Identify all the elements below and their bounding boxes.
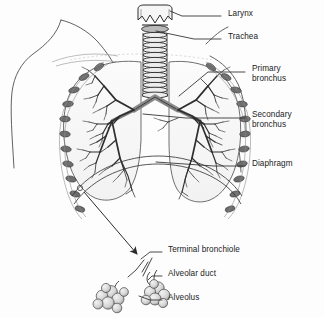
label-secondary-bronchus-line1: Secondary <box>252 110 292 120</box>
label-alveolus: Alveolus <box>168 293 199 303</box>
label-diaphragm: Diaphragm <box>252 159 293 169</box>
label-terminal-bronchiole: Terminal bronchiole <box>168 245 240 255</box>
upper-chest-contour <box>70 54 212 60</box>
respiratory-system-figure: Larynx Trachea Primary bronchus Secondar… <box>0 0 324 318</box>
trachea <box>142 32 168 98</box>
label-trachea: Trachea <box>228 32 258 42</box>
label-alveolar-duct: Alveolar duct <box>168 269 216 279</box>
leader-larynx <box>170 11 221 16</box>
label-larynx: Larynx <box>228 9 253 19</box>
label-primary-bronchus-line1: Primary <box>252 64 281 74</box>
label-secondary-bronchus-line2: bronchus <box>252 120 286 130</box>
alveolar-sac-left <box>93 283 128 312</box>
alveolar-sac-right <box>141 280 170 308</box>
larynx <box>138 5 172 33</box>
label-primary-bronchus-line2: bronchus <box>252 74 286 84</box>
